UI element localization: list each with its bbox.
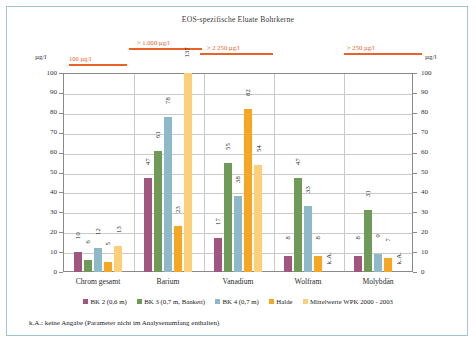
legend-label: BK 2 (0,6 m) — [91, 298, 127, 305]
y-tick-label: 70 — [31, 128, 57, 136]
bar — [154, 151, 163, 272]
x-axis-category-label: Chrom gesamt — [63, 277, 133, 286]
x-axis-category-label: Wolfram — [273, 277, 343, 286]
y-tick-label: 70 — [421, 128, 447, 136]
chart-title: EOS-spezifische Eluate Bohrkerne — [7, 15, 469, 24]
bar — [234, 196, 243, 272]
bar — [314, 256, 323, 272]
chart-footnote: k.A.: keine Angabe (Parameter nicht im A… — [29, 319, 219, 327]
gridline — [64, 114, 412, 115]
y-tick-mark — [413, 272, 417, 273]
bar — [294, 178, 303, 272]
y-tick-mark — [413, 113, 417, 114]
bar-value-label: 9 — [374, 234, 381, 238]
y-tick-mark — [59, 252, 63, 253]
bar — [284, 256, 293, 272]
y-tick-mark — [413, 252, 417, 253]
y-tick-label: 40 — [421, 188, 447, 196]
y-tick-label: 50 — [31, 168, 57, 176]
y-tick-label: 0 — [421, 268, 447, 276]
y-tick-label: 60 — [421, 148, 447, 156]
legend-item[interactable]: Halde — [269, 298, 293, 305]
y-tick-label: 30 — [31, 208, 57, 216]
y-tick-mark — [59, 93, 63, 94]
bar-value-label: 8 — [284, 236, 291, 240]
y-tick-label: 30 — [421, 208, 447, 216]
y-tick-mark — [59, 113, 63, 114]
bar-value-label: k.A. — [325, 252, 332, 264]
y-tick-label: 80 — [421, 108, 447, 116]
bar-value-label: 54 — [255, 145, 262, 152]
bar — [244, 109, 253, 272]
threshold-line-2250 — [200, 53, 273, 55]
threshold-label-1000: > 1.000 µg/l — [137, 39, 170, 46]
bar-value-label: 82 — [244, 89, 251, 96]
y-tick-label: 80 — [31, 108, 57, 116]
y-tick-mark — [59, 153, 63, 154]
group-separator — [344, 74, 345, 271]
bar-value-label: 31 — [364, 190, 371, 197]
y-tick-mark — [413, 153, 417, 154]
y-tick-mark — [59, 133, 63, 134]
bar-value-label: k.A. — [395, 252, 402, 264]
bar — [224, 163, 233, 272]
bar — [174, 226, 183, 272]
y-tick-mark — [413, 192, 417, 193]
legend-swatch — [303, 299, 308, 304]
bar — [84, 260, 93, 272]
threshold-label-2250: > 2 250 µg/l — [207, 44, 240, 51]
legend-item[interactable]: Mittelwerte WPK 2000 - 2003 — [303, 298, 393, 305]
bar — [374, 254, 383, 272]
group-separator — [204, 74, 205, 271]
legend-item[interactable]: BK 3 (0,7 m, Bankett) — [137, 298, 205, 305]
bar — [184, 73, 193, 272]
y-tick-mark — [413, 93, 417, 94]
bar — [214, 238, 223, 272]
y-tick-label: 60 — [31, 148, 57, 156]
y-tick-mark — [413, 173, 417, 174]
gridline — [64, 174, 412, 175]
bar — [164, 117, 173, 272]
bar — [354, 256, 363, 272]
bar-value-label: 12 — [94, 228, 101, 235]
bar-value-label: 10 — [74, 232, 81, 239]
gridline — [64, 154, 412, 155]
bar — [74, 252, 83, 272]
y-tick-label: 50 — [421, 168, 447, 176]
y-tick-label: 0 — [31, 268, 57, 276]
bar-value-label: 8 — [354, 236, 361, 240]
bar-value-label: 61 — [154, 131, 161, 138]
x-axis-category-label: Vanadium — [203, 277, 273, 286]
threshold-label-100: 100 µg/l — [69, 55, 91, 62]
bar-value-label: 47 — [144, 158, 151, 165]
bar — [364, 210, 373, 272]
y-tick-mark — [59, 212, 63, 213]
gridline — [64, 134, 412, 135]
bar-value-label: 47 — [294, 158, 301, 165]
threshold-line-1000 — [129, 48, 202, 50]
y-tick-label: 90 — [421, 88, 447, 96]
bar-value-label: 6 — [84, 240, 91, 244]
y-axis-unit-left: µg/l — [35, 53, 46, 61]
legend-label: Mittelwerte WPK 2000 - 2003 — [310, 298, 393, 305]
legend-item[interactable]: BK 2 (0,6 m) — [83, 298, 127, 305]
bar-value-label: 7 — [384, 238, 391, 242]
group-separator — [274, 74, 275, 271]
chart-legend: BK 2 (0,6 m)BK 3 (0,7 m, Bankett)BK 4 (0… — [7, 298, 469, 305]
bar-value-label: 78 — [164, 97, 171, 104]
bar-value-label: 55 — [224, 143, 231, 150]
bar-value-label: 17 — [214, 218, 221, 225]
threshold-line-100 — [69, 64, 127, 66]
y-tick-label: 100 — [31, 69, 57, 77]
legend-label: BK 4 (0,7 m) — [223, 298, 259, 305]
bar-value-label: 13 — [115, 226, 122, 233]
legend-swatch — [215, 299, 220, 304]
bar-value-label: 5 — [104, 242, 111, 246]
y-tick-mark — [413, 73, 417, 74]
chart-frame: EOS-spezifische Eluate Bohrkerne µg/l µg… — [6, 6, 468, 336]
bar — [254, 165, 263, 272]
bar — [384, 258, 393, 272]
legend-item[interactable]: BK 4 (0,7 m) — [215, 298, 259, 305]
x-axis-category-label: Molybdän — [343, 277, 413, 286]
legend-swatch — [269, 299, 274, 304]
